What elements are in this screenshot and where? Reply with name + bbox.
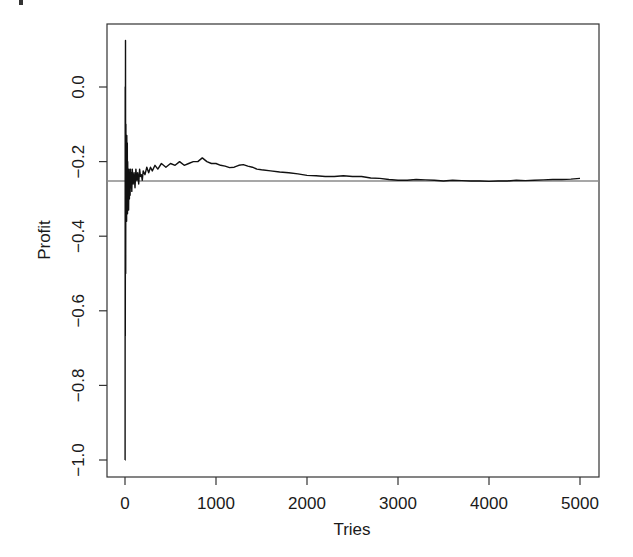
x-tick-label: 3000 <box>379 494 417 513</box>
x-axis-title: Tries <box>333 520 370 539</box>
y-tick-label: −1.0 <box>69 443 88 477</box>
y-tick-label: −0.6 <box>69 294 88 328</box>
profit-series-line <box>125 40 580 460</box>
y-tick-label: −0.4 <box>69 219 88 253</box>
line-chart: 010002000300040005000 0.0−0.2−0.4−0.6−0.… <box>0 0 633 557</box>
x-tick-label: 0 <box>120 494 129 513</box>
x-tick-label: 4000 <box>470 494 508 513</box>
y-tick-label: −0.8 <box>69 369 88 403</box>
y-axis: 0.0−0.2−0.4−0.6−0.8−1.0 <box>69 75 107 477</box>
plot-frame <box>107 24 599 477</box>
y-tick-label: −0.2 <box>69 145 88 179</box>
y-tick-label: 0.0 <box>69 75 88 99</box>
x-tick-label: 2000 <box>288 494 326 513</box>
x-tick-label: 5000 <box>561 494 599 513</box>
x-tick-label: 1000 <box>197 494 235 513</box>
x-axis: 010002000300040005000 <box>120 477 599 513</box>
y-axis-title: Profit <box>35 220 54 260</box>
